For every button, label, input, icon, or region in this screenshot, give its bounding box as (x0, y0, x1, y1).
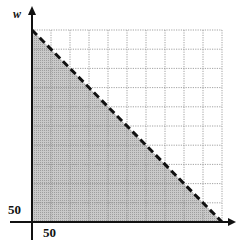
chart-canvas (0, 0, 236, 244)
y-tick-label: 50 (8, 203, 21, 216)
x-axis-arrow-icon (228, 218, 236, 226)
x-tick-label: 50 (43, 226, 56, 239)
y-axis-arrow-icon (28, 6, 36, 15)
y-axis-label: w (13, 8, 21, 20)
